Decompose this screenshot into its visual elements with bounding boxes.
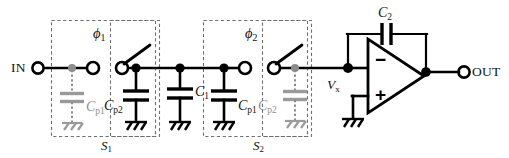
capacitor-label-c2: C2 <box>378 6 392 22</box>
dashed-box-s2-right <box>263 21 312 137</box>
switch-s1-blade[interactable] <box>124 45 150 64</box>
opamp-inverting-sign: − <box>375 50 386 69</box>
circuit-diagram: IN OUT ϕ1 ϕ2 S1 S2 Cp1 Cp2 C1 Cp1 Cp2 C2… <box>0 0 509 158</box>
capacitor-label-cp2-a: Cp2 <box>104 99 123 115</box>
switch-s1-left-contact[interactable] <box>87 62 99 74</box>
switch-s2-blade[interactable] <box>276 45 302 64</box>
node-label-vx: Vx <box>327 78 340 94</box>
clock-phi1-label: ϕ1 <box>93 26 105 43</box>
switch-s2-left-contact[interactable] <box>239 62 251 74</box>
input-terminal-ring[interactable] <box>32 62 43 73</box>
opamp-noninverting-sign: + <box>375 85 386 104</box>
block-label-s2: S2 <box>253 139 264 154</box>
node-dot-output <box>421 67 431 77</box>
block-label-s1: S1 <box>101 139 112 154</box>
input-terminal-label: IN <box>11 61 26 75</box>
capacitor-label-c1: C1 <box>195 85 209 101</box>
capacitor-label-cp2-b: Cp2 <box>258 99 277 115</box>
capacitor-label-cp1-b: Cp1 <box>238 99 257 115</box>
output-terminal-label: OUT <box>472 65 500 79</box>
clock-phi2-label: ϕ2 <box>245 26 257 43</box>
capacitor-label-cp1-a: Cp1 <box>86 100 105 116</box>
schematic-canvas <box>0 0 509 158</box>
